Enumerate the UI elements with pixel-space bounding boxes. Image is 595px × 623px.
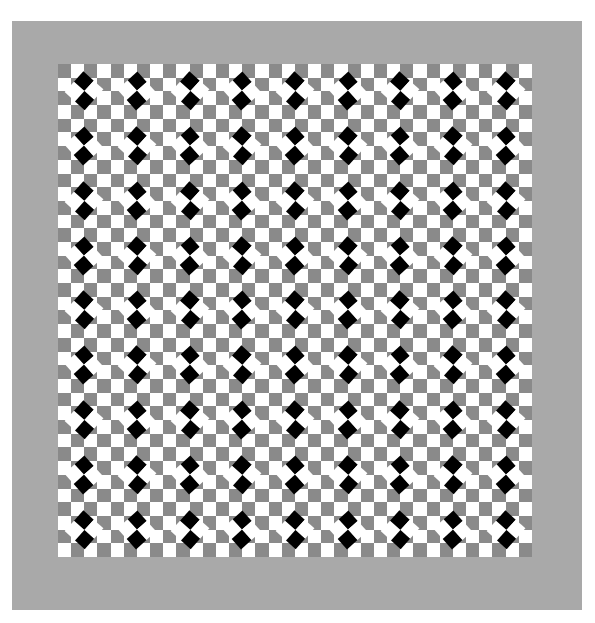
pattern-tile-b <box>269 119 322 174</box>
pattern-tile-a <box>427 119 480 174</box>
pattern-tile-a <box>269 502 322 557</box>
pattern-tile-b <box>269 447 322 502</box>
pattern-tile-a <box>374 502 427 557</box>
pattern-tile-a <box>269 283 322 338</box>
pattern-tile-b <box>374 447 427 502</box>
pattern-tile-a <box>374 64 427 119</box>
pattern-tile-a <box>374 393 427 448</box>
pattern-tile-a <box>269 64 322 119</box>
pattern-tile-a <box>58 502 111 557</box>
op-art-pattern-grid <box>58 64 532 557</box>
pattern-tile-b <box>163 228 216 283</box>
pattern-tile-a <box>58 174 111 229</box>
pattern-tile-a <box>321 338 374 393</box>
pattern-tile-b <box>216 64 269 119</box>
pattern-tile-a <box>111 119 164 174</box>
pattern-tile-a <box>216 119 269 174</box>
pattern-tile-b <box>374 338 427 393</box>
pattern-tile-a <box>321 447 374 502</box>
pattern-tile-b <box>479 228 532 283</box>
pattern-tile-a <box>111 228 164 283</box>
pattern-tile-a <box>479 174 532 229</box>
pattern-tile-b <box>216 174 269 229</box>
pattern-tile-a <box>427 338 480 393</box>
pattern-tile-a <box>479 502 532 557</box>
pattern-tile-b <box>374 228 427 283</box>
pattern-tile-b <box>269 338 322 393</box>
pattern-tile-a <box>374 283 427 338</box>
pattern-tile-a <box>269 393 322 448</box>
pattern-tile-a <box>216 338 269 393</box>
pattern-tile-a <box>58 393 111 448</box>
pattern-tile-b <box>427 283 480 338</box>
pattern-tile-b <box>427 502 480 557</box>
pattern-tile-a <box>163 64 216 119</box>
pattern-tile-b <box>58 119 111 174</box>
pattern-tile-a <box>321 119 374 174</box>
pattern-tile-a <box>216 447 269 502</box>
pattern-tile-a <box>269 174 322 229</box>
pattern-tile-a <box>321 228 374 283</box>
pattern-tile-a <box>163 283 216 338</box>
pattern-tile-b <box>163 447 216 502</box>
pattern-tile-b <box>163 338 216 393</box>
pattern-tile-b <box>479 119 532 174</box>
pattern-tile-b <box>321 64 374 119</box>
pattern-tile-b <box>479 338 532 393</box>
pattern-tile-a <box>111 338 164 393</box>
pattern-tile-b <box>427 393 480 448</box>
pattern-tile-b <box>479 447 532 502</box>
pattern-tile-a <box>163 502 216 557</box>
pattern-tile-a <box>479 283 532 338</box>
pattern-tile-b <box>427 64 480 119</box>
pattern-tile-a <box>163 393 216 448</box>
pattern-tile-a <box>163 174 216 229</box>
pattern-tile-a <box>216 228 269 283</box>
pattern-tile-b <box>321 174 374 229</box>
pattern-tile-b <box>321 393 374 448</box>
pattern-tile-b <box>111 174 164 229</box>
pattern-tile-a <box>479 393 532 448</box>
pattern-tile-b <box>58 228 111 283</box>
pattern-tile-a <box>427 228 480 283</box>
pattern-tile-a <box>58 283 111 338</box>
pattern-tile-b <box>58 338 111 393</box>
pattern-tile-b <box>111 502 164 557</box>
pattern-tile-b <box>163 119 216 174</box>
pattern-tile-b <box>427 174 480 229</box>
pattern-tile-a <box>427 447 480 502</box>
pattern-tile-b <box>58 447 111 502</box>
pattern-tile-b <box>216 502 269 557</box>
pattern-tile-b <box>111 283 164 338</box>
pattern-tile-b <box>216 393 269 448</box>
pattern-tile-b <box>111 64 164 119</box>
pattern-tile-a <box>374 174 427 229</box>
pattern-tile-a <box>479 64 532 119</box>
pattern-tile-a <box>111 447 164 502</box>
pattern-tile-b <box>269 228 322 283</box>
pattern-tile-b <box>321 502 374 557</box>
pattern-tile-b <box>111 393 164 448</box>
pattern-tile-b <box>321 283 374 338</box>
pattern-tile-b <box>216 283 269 338</box>
pattern-tile-a <box>58 64 111 119</box>
pattern-tile-b <box>374 119 427 174</box>
